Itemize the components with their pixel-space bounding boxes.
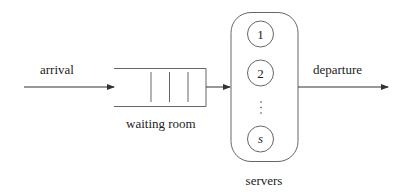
waiting-room-queue — [114, 69, 206, 107]
server-s: s — [248, 126, 274, 152]
departure-label: departure — [313, 62, 362, 77]
server-s-label: s — [258, 131, 263, 146]
servers-enclosure — [231, 13, 298, 162]
server-1-label: 1 — [257, 27, 264, 42]
arrival-label: arrival — [40, 62, 74, 77]
waiting-room-label: waiting room — [126, 116, 196, 131]
servers-label: servers — [246, 173, 283, 188]
queueing-diagram: arrival waiting room 1 2 — [0, 0, 404, 192]
vertical-ellipsis — [260, 101, 262, 114]
server-2-label: 2 — [257, 66, 264, 81]
server-1: 1 — [248, 21, 274, 47]
server-2: 2 — [248, 60, 274, 86]
